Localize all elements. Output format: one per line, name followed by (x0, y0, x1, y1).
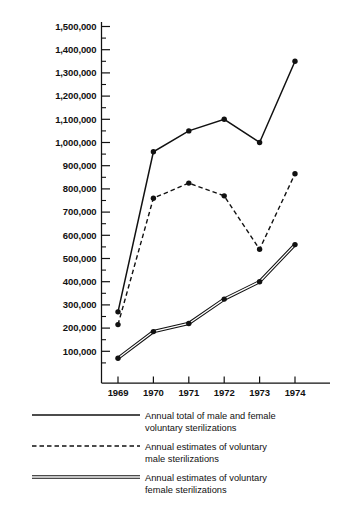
y-tick-label: 800,000 (63, 183, 97, 194)
data-point-marker (186, 128, 191, 133)
y-tick-label: 1,500,000 (55, 21, 96, 32)
data-point-marker (292, 59, 297, 64)
data-point-marker (257, 279, 262, 284)
y-tick-label: 600,000 (63, 230, 97, 241)
data-point-marker (257, 140, 262, 145)
legend-item: Annual estimates of voluntaryfemale ster… (32, 473, 267, 495)
series-line-inner (118, 245, 295, 359)
x-tick-label: 1973 (249, 387, 270, 398)
y-tick-label: 1,300,000 (55, 67, 96, 78)
data-point-marker (222, 193, 227, 198)
series-total (115, 59, 297, 315)
x-tick-label: 1972 (214, 387, 235, 398)
legend-label-line2: female sterilizations (145, 485, 227, 495)
chart-container: 100,000200,000300,000400,000500,000600,0… (0, 0, 342, 505)
x-tick-label: 1971 (178, 387, 200, 398)
series-line (118, 174, 295, 325)
x-tick-label: 1974 (285, 387, 307, 398)
x-axis: 196919701971197219731974 (102, 377, 331, 398)
legend-label-line1: Annual estimates of voluntary (145, 473, 267, 483)
data-point-marker (115, 322, 120, 327)
legend-label-line2: male sterilizations (145, 454, 219, 464)
legend-item: Annual estimates of voluntarymale steril… (32, 442, 267, 464)
legend-label-line1: Annual total of male and female (145, 411, 276, 421)
y-tick-label: 700,000 (63, 206, 97, 217)
chart-legend: Annual total of male and femalevoluntary… (32, 411, 276, 495)
data-series-group (115, 59, 297, 361)
data-point-marker (292, 171, 297, 176)
x-tick-marks (118, 377, 295, 384)
y-tick-marks (102, 27, 111, 363)
data-point-marker (222, 117, 227, 122)
x-tick-labels: 196919701971197219731974 (108, 387, 307, 398)
data-point-marker (151, 329, 156, 334)
x-tick-label: 1970 (143, 387, 164, 398)
data-point-marker (186, 321, 191, 326)
data-point-marker (186, 180, 191, 185)
series-female (115, 242, 297, 361)
legend-label-line1: Annual estimates of voluntary (145, 442, 267, 452)
y-tick-label: 1,100,000 (55, 114, 96, 125)
y-tick-label: 500,000 (63, 253, 97, 264)
data-point-marker (257, 247, 262, 252)
data-point-marker (292, 242, 297, 247)
data-point-marker (151, 195, 156, 200)
y-tick-label: 200,000 (63, 322, 97, 333)
series-male (115, 171, 297, 327)
data-point-marker (151, 149, 156, 154)
y-tick-label: 900,000 (63, 160, 97, 171)
data-point-marker (115, 356, 120, 361)
y-tick-label: 100,000 (63, 346, 97, 357)
line-chart: 100,000200,000300,000400,000500,000600,0… (0, 0, 342, 505)
y-tick-label: 400,000 (63, 276, 97, 287)
y-tick-label: 300,000 (63, 299, 97, 310)
data-point-marker (222, 296, 227, 301)
legend-item: Annual total of male and femalevoluntary… (32, 411, 276, 433)
y-tick-label: 1,400,000 (55, 44, 96, 55)
y-axis: 100,000200,000300,000400,000500,000600,0… (55, 21, 110, 383)
y-tick-labels: 100,000200,000300,000400,000500,000600,0… (55, 21, 96, 357)
x-tick-label: 1969 (108, 387, 129, 398)
legend-label-line2: voluntary sterilizations (145, 423, 237, 433)
y-tick-label: 1,000,000 (55, 137, 96, 148)
series-line-outer (118, 245, 295, 359)
data-point-marker (115, 309, 120, 314)
y-tick-label: 1,200,000 (55, 90, 96, 101)
